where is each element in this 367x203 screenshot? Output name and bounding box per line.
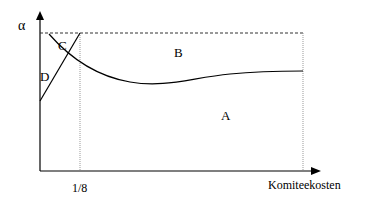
y-axis-arrow-icon xyxy=(36,11,44,20)
x-axis-arrow-icon xyxy=(311,167,321,175)
x-axis-label: Komiteekosten xyxy=(268,178,341,192)
region-label-d: D xyxy=(40,69,49,84)
region-label-c: C xyxy=(58,38,67,53)
y-axis-label: α xyxy=(18,18,26,33)
region-label-b: B xyxy=(174,45,183,60)
region-label-a: A xyxy=(221,108,231,123)
diagram-canvas: α C D B A 1/8 Komiteekosten xyxy=(0,0,367,203)
x-tick-label: 1/8 xyxy=(72,181,87,195)
